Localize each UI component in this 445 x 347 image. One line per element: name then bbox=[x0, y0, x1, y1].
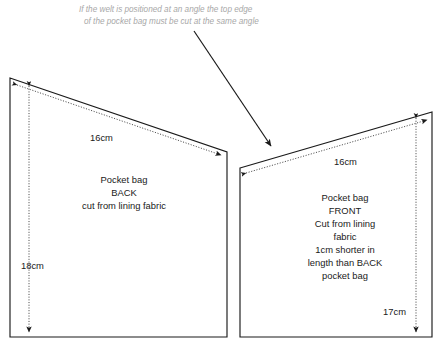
annotation-note: If the welt is positioned at an angle th… bbox=[79, 5, 259, 26]
back-label-line-1: Pocket bag bbox=[101, 174, 148, 185]
front-top-edge-dimension-label: 16cm bbox=[334, 156, 357, 167]
front-label-line-1: Pocket bag bbox=[322, 192, 369, 203]
back-label-line-3: cut from lining fabric bbox=[82, 200, 166, 211]
front-label-line-4: fabric bbox=[334, 231, 357, 242]
pocket-bag-front-piece: 16cm 17cm Pocket bag FRONT Cut from lini… bbox=[240, 112, 432, 337]
annotation-line-1: If the welt is positioned at an angle th… bbox=[79, 5, 253, 14]
front-label-line-2: FRONT bbox=[329, 205, 362, 216]
back-label-line-2: BACK bbox=[111, 187, 137, 198]
front-label-line-5: 1cm shorter in bbox=[315, 244, 374, 255]
front-label-line-6: length than BACK bbox=[308, 257, 383, 268]
callout-pointer-arrow bbox=[194, 31, 271, 146]
back-top-edge-dimension-label: 16cm bbox=[90, 132, 113, 143]
annotation-line-2: of the pocket bag must be cut at the sam… bbox=[84, 17, 259, 26]
pocket-bag-back-piece: 16cm 18cm Pocket bag BACK cut from linin… bbox=[10, 78, 227, 337]
pocket-bag-pattern-diagram: If the welt is positioned at an angle th… bbox=[0, 0, 445, 347]
front-label-line-7: pocket bag bbox=[322, 270, 368, 281]
front-right-edge-dimension-label: 17cm bbox=[383, 306, 406, 317]
front-label-line-3: Cut from lining bbox=[315, 218, 375, 229]
back-left-edge-dimension-label: 18cm bbox=[21, 260, 44, 271]
